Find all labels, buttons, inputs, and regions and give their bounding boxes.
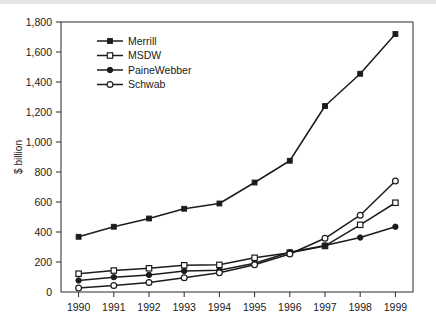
data-point bbox=[217, 270, 223, 276]
x-tick-label: 1996 bbox=[278, 301, 302, 313]
y-axis: 02004006008001,0001,2001,4001,6001,800 bbox=[26, 16, 61, 298]
legend-label: PaineWebber bbox=[128, 64, 192, 76]
legend-item-painewebber[interactable]: PaineWebber bbox=[97, 64, 192, 76]
y-tick-label: 1,200 bbox=[26, 106, 52, 118]
x-tick-label: 1998 bbox=[349, 301, 373, 313]
data-point bbox=[393, 178, 399, 184]
data-point bbox=[182, 206, 187, 211]
data-point bbox=[76, 285, 82, 291]
data-point bbox=[146, 280, 152, 286]
line-chart: 02004006008001,0001,2001,4001,6001,800$ … bbox=[0, 0, 436, 327]
y-tick-label: 200 bbox=[34, 256, 52, 268]
legend-item-schwab[interactable]: Schwab bbox=[97, 78, 166, 90]
x-tick-label: 1999 bbox=[384, 301, 408, 313]
data-point bbox=[358, 71, 363, 76]
data-point bbox=[323, 104, 328, 109]
data-point bbox=[358, 222, 363, 227]
y-tick-label: 1,000 bbox=[26, 136, 52, 148]
legend-marker bbox=[107, 53, 112, 58]
legend-marker bbox=[108, 39, 113, 44]
chart-page: 02004006008001,0001,2001,4001,6001,800$ … bbox=[0, 0, 436, 327]
series-painewebber bbox=[76, 224, 398, 283]
data-point bbox=[111, 268, 116, 273]
y-axis-title: $ billion bbox=[13, 140, 24, 174]
data-point bbox=[76, 271, 81, 276]
series-line bbox=[79, 227, 396, 281]
data-point bbox=[111, 283, 117, 289]
y-tick-label: 400 bbox=[34, 226, 52, 238]
y-tick-label: 800 bbox=[34, 166, 52, 178]
data-point bbox=[252, 262, 258, 268]
data-point bbox=[287, 158, 292, 163]
data-point bbox=[393, 32, 398, 37]
data-point bbox=[146, 272, 151, 277]
x-axis: 1990199119921993199419951996199719981999 bbox=[67, 292, 407, 313]
data-point bbox=[111, 224, 116, 229]
data-point bbox=[358, 235, 363, 240]
data-point bbox=[76, 234, 81, 239]
y-tick-label: 0 bbox=[46, 286, 52, 298]
data-point bbox=[181, 275, 187, 281]
legend-label: Merrill bbox=[128, 35, 157, 47]
y-tick-label: 1,600 bbox=[26, 46, 52, 58]
legend: MerrillMSDWPaineWebberSchwab bbox=[97, 35, 192, 91]
y-tick-label: 1,400 bbox=[26, 76, 52, 88]
data-point bbox=[322, 243, 327, 248]
x-tick-label: 1993 bbox=[173, 301, 197, 313]
legend-label: MSDW bbox=[128, 49, 161, 61]
data-point bbox=[252, 255, 257, 260]
x-tick-label: 1992 bbox=[137, 301, 161, 313]
data-point bbox=[146, 266, 151, 271]
series-line bbox=[79, 203, 396, 274]
data-point bbox=[357, 212, 363, 218]
plot-frame bbox=[61, 22, 413, 292]
series-merrill bbox=[76, 32, 398, 240]
data-point bbox=[252, 180, 257, 185]
series-msdw bbox=[76, 200, 398, 276]
x-tick-label: 1997 bbox=[313, 301, 337, 313]
legend-item-merrill[interactable]: Merrill bbox=[97, 35, 157, 47]
data-point bbox=[287, 251, 293, 257]
x-tick-label: 1990 bbox=[67, 301, 91, 313]
x-tick-label: 1995 bbox=[243, 301, 267, 313]
series-line bbox=[79, 181, 396, 288]
x-tick-label: 1991 bbox=[102, 301, 126, 313]
legend-marker bbox=[107, 67, 112, 72]
data-point bbox=[217, 262, 222, 267]
y-tick-label: 1,800 bbox=[26, 16, 52, 28]
legend-item-msdw[interactable]: MSDW bbox=[97, 49, 161, 61]
y-tick-label: 600 bbox=[34, 196, 52, 208]
series-line bbox=[79, 34, 396, 237]
data-point bbox=[147, 216, 152, 221]
data-point bbox=[322, 235, 328, 241]
data-point bbox=[393, 200, 398, 205]
data-point bbox=[182, 268, 187, 273]
legend-label: Schwab bbox=[128, 78, 166, 90]
data-point bbox=[76, 278, 81, 283]
data-point bbox=[182, 263, 187, 268]
data-point bbox=[111, 274, 116, 279]
data-point bbox=[393, 224, 398, 229]
data-point bbox=[217, 201, 222, 206]
x-tick-label: 1994 bbox=[208, 301, 232, 313]
series-schwab bbox=[76, 178, 399, 291]
legend-marker bbox=[107, 82, 113, 88]
